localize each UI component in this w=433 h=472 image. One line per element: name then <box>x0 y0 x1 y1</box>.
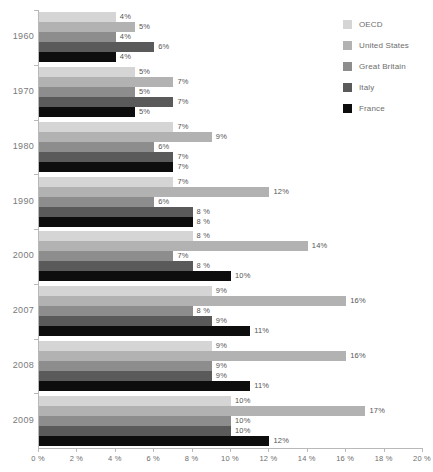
bar <box>39 416 231 426</box>
bar-value-label: 9% <box>216 132 227 142</box>
bar-value-label: 5% <box>139 22 150 32</box>
bar-value-label: 9% <box>216 286 227 296</box>
bar-value-label: 6% <box>158 197 169 207</box>
bar <box>39 77 173 87</box>
bar <box>39 286 212 296</box>
x-axis-tick-label: 10 % <box>221 454 239 463</box>
legend-swatch-icon <box>343 104 352 113</box>
horizontal-bar-chart: 4%5%4%6%4%5%7%5%7%5%7%9%6%7%7%7%12%6%8 %… <box>0 0 433 472</box>
bar-value-label: 7% <box>177 177 188 187</box>
legend-label: United States <box>359 41 409 50</box>
x-axis-tick-label: 6 % <box>146 454 160 463</box>
x-axis-tick <box>192 448 193 452</box>
bar-value-label: 8 % <box>197 217 211 227</box>
bar <box>39 122 173 132</box>
bar <box>39 22 135 32</box>
y-axis-group-label: 2000 <box>0 250 34 260</box>
x-axis-tick <box>38 448 39 452</box>
y-axis-group-label: 2007 <box>0 305 34 315</box>
bar <box>39 271 231 281</box>
x-axis-tick <box>230 448 231 452</box>
bar <box>39 296 346 306</box>
legend-swatch-icon <box>343 62 352 71</box>
bar <box>39 177 173 187</box>
y-axis-tick <box>34 284 38 285</box>
bar <box>39 241 308 251</box>
bar-value-label: 9% <box>216 316 227 326</box>
bar-value-label: 4% <box>120 32 131 42</box>
bar <box>39 306 193 316</box>
bar-value-label: 10% <box>235 396 251 406</box>
bar-value-label: 4% <box>120 52 131 62</box>
bar <box>39 361 212 371</box>
x-axis-tick <box>76 448 77 452</box>
x-axis-tick-label: 0 % <box>31 454 45 463</box>
y-axis-tick <box>34 120 38 121</box>
bar-value-label: 7% <box>177 122 188 132</box>
bar <box>39 67 135 77</box>
bar-value-label: 11% <box>254 326 269 336</box>
bar <box>39 351 346 361</box>
bar-value-label: 8 % <box>197 306 211 316</box>
bar <box>39 251 173 261</box>
legend-label: OECD <box>359 20 383 29</box>
bar-value-label: 5% <box>139 87 150 97</box>
bar <box>39 87 135 97</box>
x-axis-tick-label: 12 % <box>259 454 277 463</box>
x-axis-tick <box>307 448 308 452</box>
bar <box>39 197 154 207</box>
bar <box>39 132 212 142</box>
bar <box>39 396 231 406</box>
bar <box>39 231 193 241</box>
bar <box>39 107 135 117</box>
x-axis-tick <box>384 448 385 452</box>
x-axis-tick <box>115 448 116 452</box>
bar-value-label: 7% <box>177 152 188 162</box>
y-axis-group-label: 1990 <box>0 196 34 206</box>
bar-value-label: 8 % <box>197 231 211 241</box>
bar-value-label: 7% <box>177 162 188 172</box>
bar <box>39 426 231 436</box>
bar <box>39 406 365 416</box>
bar-value-label: 7% <box>177 77 188 87</box>
bar-value-label: 10% <box>235 416 251 426</box>
x-axis-tick-label: 14 % <box>298 454 316 463</box>
bar-value-label: 12% <box>273 187 289 197</box>
bar <box>39 371 212 381</box>
bar-value-label: 16% <box>350 296 366 306</box>
legend-label: France <box>359 104 385 113</box>
bar-value-label: 6% <box>158 142 169 152</box>
bar <box>39 152 173 162</box>
y-axis-tick <box>34 229 38 230</box>
bar-value-label: 7% <box>177 251 188 261</box>
y-axis-group-label: 1980 <box>0 141 34 151</box>
bar <box>39 142 154 152</box>
bar-value-label: 17% <box>369 406 385 416</box>
legend-item: OECD <box>343 14 433 35</box>
y-axis-group-label: 2009 <box>0 415 34 425</box>
x-axis-tick-label: 16 % <box>336 454 354 463</box>
legend-item: United States <box>343 35 433 56</box>
bar <box>39 316 212 326</box>
y-axis-group-label: 1960 <box>0 31 34 41</box>
legend: OECDUnited StatesGreat BritainItalyFranc… <box>343 14 433 119</box>
bar-value-label: 5% <box>139 67 150 77</box>
bar-value-label: 7% <box>177 97 188 107</box>
x-axis-tick <box>268 448 269 452</box>
bar <box>39 162 173 172</box>
x-axis-tick <box>422 448 423 452</box>
x-axis-tick <box>345 448 346 452</box>
bar <box>39 97 173 107</box>
y-axis-group-label: 2008 <box>0 360 34 370</box>
bar-value-label: 10% <box>235 271 251 281</box>
bar-value-label: 6% <box>158 42 169 52</box>
bar-value-label: 12% <box>273 436 289 446</box>
legend-label: Great Britain <box>359 62 406 71</box>
y-axis-tick <box>34 339 38 340</box>
bar-value-label: 10% <box>235 426 251 436</box>
x-axis-tick-label: 20 % <box>413 454 431 463</box>
x-axis-tick-label: 4 % <box>108 454 122 463</box>
y-axis-tick <box>34 174 38 175</box>
y-axis-group-label: 1970 <box>0 86 34 96</box>
x-axis-tick-label: 8 % <box>185 454 199 463</box>
